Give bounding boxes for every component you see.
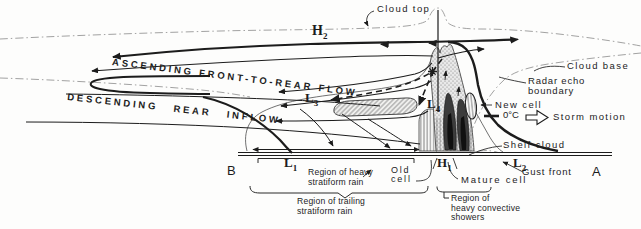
old-cell-leader [416,160,431,181]
rear-overturn-curve [91,76,210,94]
pressure-label-h1: H1 [437,157,452,174]
region-heavy-stratiform-label: Region of heavy stratiform rain [308,168,373,187]
pressure-label-h2: H2 [312,25,327,42]
zero-degree-label: 0°C [503,109,519,120]
region-convective-label: Region of heavy convective showers [451,194,520,223]
rear-cloud-base-line [0,78,250,97]
mature-cell-label: Mature cell [461,174,527,185]
cloud-top-leader [367,11,374,26]
pressure-label-l2: L2 [513,157,526,174]
radar-echo-label: Radar echo boundary [528,76,585,95]
cloud-base-leader [534,66,565,71]
storm-motion-label: Storm motion [553,111,626,122]
pressure-label-l1: L1 [284,157,297,174]
squall-line-diagram: ASCENDING FRONT-TO-REAR FLOW DESCENDING … [0,0,641,229]
region-trailing-stratiform-label: Region of trailing stratiform rain [297,197,365,216]
old-cell-label: Old cell [391,166,412,184]
rear-inflow-lower-line [26,122,420,144]
endpoint-b-label: B [227,163,236,178]
bracket-heavy-stratiform [258,159,414,164]
shelf-cloud-label: Shelf cloud [503,139,565,150]
bracket-convective [437,187,491,193]
pressure-label-l4: L4 [427,98,440,115]
storm-motion-arrow-icon [526,111,548,125]
bright-band [334,98,417,116]
pressure-label-l3: L3 [305,92,318,109]
radar-echo-leader [499,77,526,83]
endpoint-a-label: A [592,164,601,179]
cloud-base-label: Cloud base [567,60,629,71]
gust-front-label: Gust front [522,167,572,177]
bracket-convective-hook [444,192,449,198]
cloud-top-label: Cloud top [377,3,430,14]
